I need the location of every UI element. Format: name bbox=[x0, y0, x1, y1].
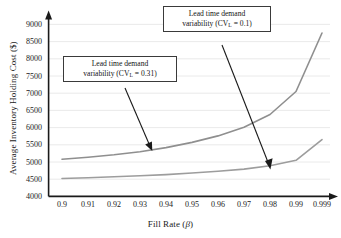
y-axis-arrowhead bbox=[45, 11, 52, 20]
annotation-callout-cv031-line1: Lead time demand bbox=[68, 59, 172, 69]
y-tick-label: 7000 bbox=[14, 89, 42, 98]
y-tick-label: 7500 bbox=[14, 72, 42, 81]
annotation-callout-cv01: Lead time demand variability (CVL = 0.1) bbox=[163, 6, 271, 32]
annotation-arrow-cv031 bbox=[125, 88, 152, 151]
annotation-arrow-cv01-head bbox=[265, 158, 273, 169]
annotation-callout-cv031-line2: variability (CVL = 0.31) bbox=[68, 69, 172, 79]
annotation-cv01-subscript: L bbox=[228, 22, 231, 28]
annotation-cv031-subscript: L bbox=[129, 72, 132, 78]
annotation-arrow-cv031-shaft bbox=[125, 88, 150, 145]
annotation-callout-cv01-line2: variability (CVL = 0.1) bbox=[168, 19, 266, 29]
x-tick-label: 0.95 bbox=[179, 200, 205, 209]
y-tick-label: 5000 bbox=[14, 158, 42, 167]
y-tick-label: 5500 bbox=[14, 140, 42, 149]
annotation-cv01-pre: variability (CV bbox=[182, 19, 228, 28]
x-tick-label: 0.96 bbox=[205, 200, 231, 209]
series-cv031-curve bbox=[62, 33, 322, 159]
y-tick-label: 4000 bbox=[14, 192, 42, 201]
y-tick-label: 4500 bbox=[14, 175, 42, 184]
annotation-cv031-pre: variability (CV bbox=[83, 69, 129, 78]
annotation-arrow-cv01 bbox=[222, 45, 273, 170]
x-tick-label: 0.999 bbox=[309, 200, 335, 209]
x-tick-label: 0.92 bbox=[101, 200, 127, 209]
y-tick-label: 9000 bbox=[14, 20, 42, 29]
x-tick-label: 0.99 bbox=[283, 200, 309, 209]
annotation-callout-cv031: Lead time demand variability (CVL = 0.31… bbox=[63, 56, 177, 82]
annotation-cv01-post: = 0.1) bbox=[232, 19, 252, 28]
x-tick-label: 0.9 bbox=[49, 200, 75, 209]
x-axis-arrowhead bbox=[329, 193, 338, 200]
x-tick-label: 0.93 bbox=[127, 200, 153, 209]
y-tick-label: 8000 bbox=[14, 54, 42, 63]
x-axis-title-close: ) bbox=[190, 219, 193, 229]
annotation-arrow-cv01-shaft bbox=[222, 45, 269, 164]
annotation-callout-cv01-line1: Lead time demand bbox=[168, 9, 266, 19]
chart-figure: Average Inventory Holding Cost ($) Fill … bbox=[0, 0, 341, 238]
y-tick-label: 6000 bbox=[14, 123, 42, 132]
gridlines bbox=[49, 24, 330, 179]
series-cv01-curve bbox=[62, 140, 322, 179]
annotation-cv031-post: = 0.31) bbox=[133, 69, 157, 78]
y-tick-label: 6500 bbox=[14, 106, 42, 115]
y-tick-label: 8500 bbox=[14, 37, 42, 46]
axis-lines bbox=[49, 17, 332, 196]
x-axis-title: Fill Rate (β) bbox=[0, 219, 341, 229]
x-tick-label: 0.94 bbox=[153, 200, 179, 209]
x-axis-title-text: Fill Rate ( bbox=[148, 219, 186, 229]
x-tick-label: 0.91 bbox=[75, 200, 101, 209]
x-tick-label: 0.98 bbox=[257, 200, 283, 209]
x-tick-label: 0.97 bbox=[231, 200, 257, 209]
